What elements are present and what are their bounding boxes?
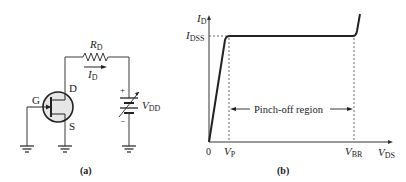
left-arrow-icon — [230, 107, 236, 111]
idss-label: IDSS — [185, 29, 204, 43]
drain-label: D — [69, 82, 77, 94]
y-axis-arrow-icon — [207, 15, 211, 20]
caption-b: (b) — [277, 165, 289, 177]
pinch-off-label: Pinch-off region — [254, 104, 324, 115]
current-label: ID — [87, 68, 98, 82]
id-vds-chart: Pinch-off region ID IDSS 0 VP VBR VDS (b… — [185, 12, 395, 177]
gate-label: G — [32, 94, 40, 106]
right-arrow-icon — [347, 107, 353, 111]
vp-label: VP — [224, 145, 236, 159]
vbr-label: VBR — [345, 145, 363, 159]
ground-icon — [122, 146, 136, 152]
x-axis-arrow-icon — [388, 140, 393, 144]
resistor-rd-icon — [83, 53, 108, 61]
id-curve — [209, 14, 360, 142]
resistor-label: RD — [89, 38, 103, 52]
supply-top-wire — [108, 57, 129, 98]
ground-icon — [58, 146, 72, 152]
ground-icon — [20, 146, 34, 152]
pinch-off-span: Pinch-off region — [230, 104, 353, 115]
x-axis-label: VDS — [378, 146, 395, 160]
minus-sign: − — [120, 116, 125, 126]
source-label: S — [69, 120, 75, 132]
y-axis-label: ID — [196, 12, 207, 26]
circuit-diagram: RD ID D G S + − VDD (a) — [20, 38, 161, 177]
supply-label: VDD — [142, 99, 161, 113]
origin-label: 0 — [206, 146, 211, 157]
plus-sign: + — [120, 85, 125, 95]
caption-a: (a) — [80, 165, 92, 177]
jfet-figure: RD ID D G S + − VDD (a) Pinch-off region — [0, 0, 406, 182]
